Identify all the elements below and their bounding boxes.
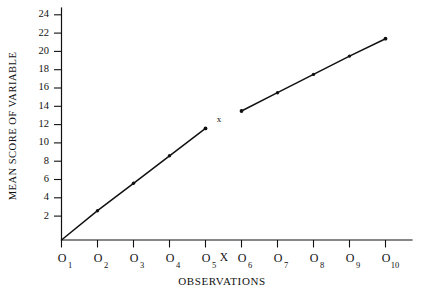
y-tick-label: 2 [44, 210, 49, 221]
x-tick-label: O [274, 251, 283, 265]
y-tick-label: 22 [39, 27, 50, 38]
x-axis-title: OBSERVATIONS [178, 275, 265, 287]
intervention-plot-marker: x [217, 114, 222, 124]
chart-figure: 2 4 6 8 10 12 14 16 18 20 22 24 [0, 0, 422, 293]
data-point [240, 109, 244, 113]
chart-canvas: 2 4 6 8 10 12 14 16 18 20 22 24 [0, 0, 422, 293]
y-tick-label: 14 [39, 100, 50, 111]
y-tick-label: 20 [39, 45, 50, 56]
data-point [204, 126, 208, 130]
y-tick-label: 16 [39, 81, 50, 92]
data-point [384, 37, 388, 41]
x-tick-label: O [346, 251, 355, 265]
x-tick-subscript: 3 [140, 260, 144, 270]
x-tick-subscript: 7 [284, 260, 288, 270]
y-tick-label: 10 [39, 136, 50, 147]
x-tick-subscript: 10 [391, 260, 400, 270]
x-axis-ticks [62, 240, 386, 248]
x-tick-label: O [130, 251, 139, 265]
x-tick-label: O [202, 251, 211, 265]
x-tick-subscript: 1 [68, 260, 72, 270]
x-tick-subscript: 2 [104, 260, 108, 270]
data-point [276, 91, 279, 94]
x-tick-subscript: 8 [320, 260, 324, 270]
y-tick-label: 8 [44, 155, 49, 166]
series-pre-intervention [62, 126, 208, 240]
y-axis-title: MEAN SCORE OF VARIABLE [7, 52, 18, 201]
y-tick-label: 18 [39, 63, 50, 74]
data-point [132, 182, 135, 185]
x-tick-subscript: 4 [176, 260, 181, 270]
x-tick-label: O [58, 251, 67, 265]
x-tick-label: O [382, 251, 391, 265]
y-tick-label: 6 [44, 173, 49, 184]
data-point [96, 209, 99, 212]
series-post-intervention [240, 37, 388, 113]
x-tick-subscript: 5 [212, 260, 216, 270]
data-point [348, 54, 351, 57]
y-tick-label: 4 [44, 191, 50, 202]
x-tick-label: O [94, 251, 103, 265]
x-tick-label: O [166, 251, 175, 265]
x-tick-subscript: 6 [248, 260, 252, 270]
x-axis-tick-labels: O 1 O 2 O 3 O 4 O 5 X O 6 O 7 O 8 O 9 O … [58, 251, 400, 270]
y-tick-label: 12 [39, 118, 50, 129]
x-tick-label: O [310, 251, 319, 265]
x-tick-label: O [238, 251, 247, 265]
y-tick-label: 24 [39, 8, 50, 19]
y-axis-ticks: 2 4 6 8 10 12 14 16 18 20 22 24 [39, 8, 62, 220]
intervention-axis-marker: X [220, 251, 229, 263]
x-tick-subscript: 9 [356, 260, 360, 270]
data-point [312, 73, 315, 76]
axes-group [62, 8, 413, 240]
data-point [168, 154, 171, 157]
